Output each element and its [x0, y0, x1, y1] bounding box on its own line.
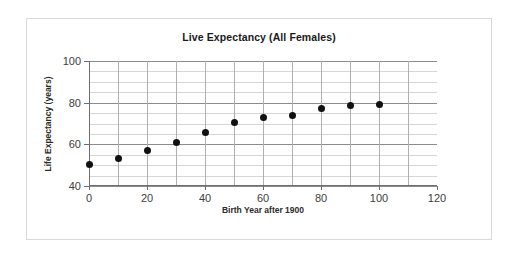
- x-tick-mark: [89, 186, 90, 190]
- x-axis-title: Birth Year after 1900: [89, 205, 437, 215]
- plot-area: 100806040 020406080100120: [89, 61, 437, 186]
- data-point: [144, 147, 151, 154]
- y-tick-mark: [84, 144, 89, 145]
- gridline-vertical: [205, 61, 206, 186]
- x-tick-mark: [205, 186, 206, 190]
- x-tick-mark: [321, 186, 322, 190]
- data-point: [86, 161, 93, 168]
- x-tick-mark: [147, 186, 148, 190]
- data-point: [202, 129, 209, 136]
- y-axis-title: Life Expectancy (years): [41, 61, 55, 186]
- x-tick-label: 40: [199, 192, 211, 204]
- y-tick-mark: [84, 103, 89, 104]
- data-point: [260, 114, 267, 121]
- x-tick-mark: [437, 186, 438, 190]
- gridline-vertical: [321, 61, 322, 186]
- x-tick-mark: [263, 186, 264, 190]
- x-tick-label: 20: [141, 192, 153, 204]
- x-tick-label: 120: [428, 192, 446, 204]
- data-point: [347, 102, 354, 109]
- gridline-vertical: [350, 61, 351, 186]
- chart-title: Live Expectancy (All Females): [27, 31, 491, 43]
- y-tick-label: 80: [69, 97, 81, 109]
- y-tick-label: 60: [69, 138, 81, 150]
- x-tick-label: 100: [370, 192, 388, 204]
- gridline-vertical: [118, 61, 119, 186]
- gridline-vertical: [292, 61, 293, 186]
- x-tick-mark: [379, 186, 380, 190]
- y-tick-label: 100: [63, 55, 81, 67]
- data-point: [376, 101, 383, 108]
- chart-figure: Live Expectancy (All Females) Life Expec…: [26, 18, 492, 240]
- gridline-vertical: [408, 61, 409, 186]
- data-point: [173, 139, 180, 146]
- y-tick-mark: [84, 61, 89, 62]
- data-point: [318, 105, 325, 112]
- y-axis-title-label: Life Expectancy (years): [43, 76, 53, 171]
- x-tick-label: 0: [86, 192, 92, 204]
- y-tick-label: 40: [69, 180, 81, 192]
- data-point: [289, 112, 296, 119]
- gridline-vertical: [176, 61, 177, 186]
- x-tick-label: 80: [315, 192, 327, 204]
- gridline-vertical: [147, 61, 148, 186]
- data-point: [231, 119, 238, 126]
- data-point: [115, 155, 122, 162]
- gridline-vertical: [379, 61, 380, 186]
- gridline-vertical: [263, 61, 264, 186]
- x-tick-label: 60: [257, 192, 269, 204]
